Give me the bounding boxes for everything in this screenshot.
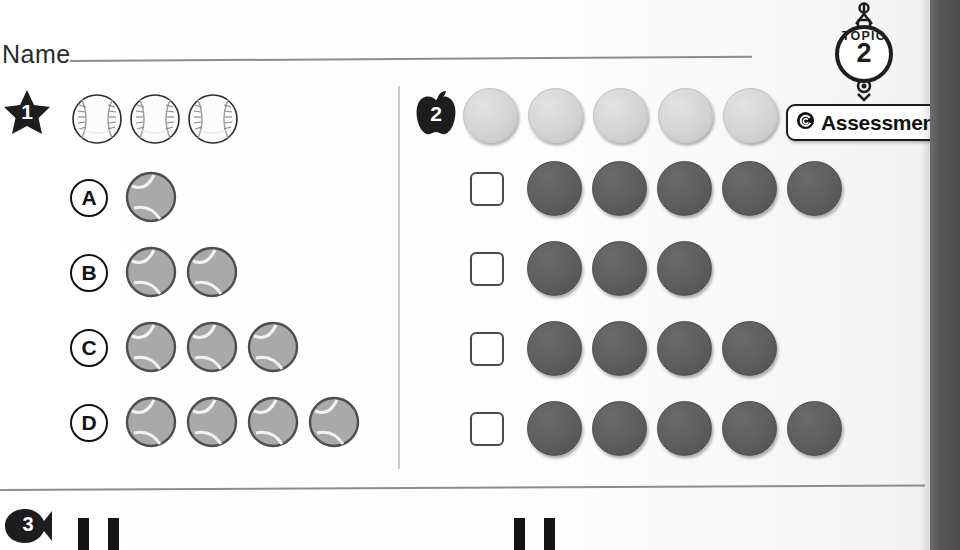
option-letter-a[interactable]: A	[70, 179, 108, 217]
page-edge-band	[930, 0, 960, 550]
tennis-ball-icon	[246, 395, 301, 450]
exercise-2-number: 2	[413, 102, 459, 126]
tennis-ball-icon	[185, 320, 240, 375]
column-divider	[398, 86, 400, 469]
name-write-line[interactable]	[70, 56, 752, 62]
tally-mark-icon	[544, 518, 555, 550]
tennis-ball-icon	[124, 395, 179, 450]
counter-dark-icon	[527, 401, 582, 456]
option-letter-c[interactable]: C	[70, 329, 108, 367]
counter-dark-icon	[592, 241, 647, 296]
checkbox-3[interactable]	[470, 332, 504, 366]
exercise-2-choice-row-2[interactable]	[470, 241, 722, 296]
counter-dark-icon	[722, 161, 777, 216]
counter-dark-icon	[787, 161, 842, 216]
option-row-b[interactable]: B	[70, 245, 246, 300]
baseball-icon	[128, 92, 182, 146]
tally-mark-icon	[514, 518, 525, 550]
worksheet-page: Name TOPIC 2 Assessment	[0, 0, 960, 550]
counter-dark-icon	[657, 241, 712, 296]
tennis-ball-icon	[124, 245, 179, 300]
checkbox-2[interactable]	[470, 252, 504, 286]
exercise-2-choice-row-1[interactable]	[470, 161, 852, 216]
copyright-spiral-icon	[796, 111, 815, 134]
counter-dark-icon	[592, 321, 647, 376]
exercise-2-choice-row-4[interactable]	[470, 401, 852, 456]
option-letter-d[interactable]: D	[70, 404, 108, 442]
tally-group-1	[78, 518, 138, 550]
counter-light-icon	[593, 88, 648, 143]
tennis-ball-icon	[307, 395, 362, 450]
exercise-1-prompt-row	[70, 92, 244, 146]
page-edge-shadow	[920, 0, 930, 550]
counter-light-icon	[463, 88, 518, 143]
section-divider	[0, 484, 925, 491]
exercise-1-number: 1	[2, 100, 52, 124]
checkbox-1[interactable]	[470, 172, 504, 206]
counter-dark-icon	[527, 161, 582, 216]
counter-dark-icon	[722, 321, 777, 376]
tally-group-2	[514, 518, 574, 550]
option-row-c[interactable]: C	[70, 320, 307, 375]
counter-dark-icon	[592, 401, 647, 456]
tennis-ball-icon	[124, 170, 179, 225]
tally-mark-icon	[78, 518, 89, 550]
tennis-ball-icon	[246, 320, 301, 375]
counter-dark-icon	[592, 161, 647, 216]
name-label: Name	[2, 40, 71, 69]
counter-dark-icon	[527, 241, 582, 296]
exercise-2-badge: 2	[413, 90, 459, 138]
tally-mark-icon	[108, 518, 119, 550]
counter-dark-icon	[722, 401, 777, 456]
option-row-d[interactable]: D	[70, 395, 368, 450]
option-row-a[interactable]: A	[70, 170, 185, 225]
counter-dark-icon	[657, 161, 712, 216]
counter-light-icon	[723, 88, 778, 143]
baseball-icon	[70, 92, 124, 146]
exercise-3-badge: 3	[2, 505, 54, 547]
topic-number: 2	[818, 40, 910, 67]
counter-dark-icon	[657, 401, 712, 456]
tennis-ball-icon	[185, 395, 240, 450]
counter-light-icon	[658, 88, 713, 143]
exercise-2-choice-row-3[interactable]	[470, 321, 787, 376]
tennis-ball-icon	[185, 245, 240, 300]
option-letter-b[interactable]: B	[70, 254, 108, 292]
exercise-1-badge: 1	[2, 88, 52, 138]
baseball-icon	[186, 92, 240, 146]
counter-dark-icon	[527, 321, 582, 376]
checkbox-4[interactable]	[470, 412, 504, 446]
exercise-3-number: 3	[2, 513, 54, 536]
counter-dark-icon	[787, 401, 842, 456]
exercise-2-reference-row	[463, 88, 788, 143]
tennis-ball-icon	[124, 320, 179, 375]
counter-dark-icon	[657, 321, 712, 376]
counter-light-icon	[528, 88, 583, 143]
